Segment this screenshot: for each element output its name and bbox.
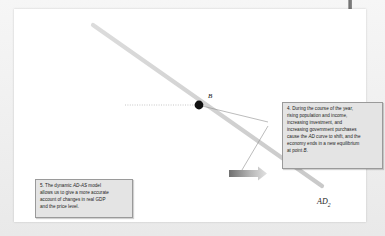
callout4-line5-a: cause the <box>287 134 308 139</box>
ad2-curve-label: AD2 <box>317 197 330 208</box>
ad2-label-subscript: 2 <box>328 202 331 208</box>
equilibrium-point-b-marker <box>195 101 204 110</box>
point-b-label: B <box>208 92 212 100</box>
callout4-line-5: cause the AD curve to shift, and the <box>287 134 379 141</box>
callout4-leader-to-arrow <box>239 126 268 175</box>
callout5-line-4: and the price level. <box>40 204 129 211</box>
callout4-line5-b: curve to shift, and the <box>315 134 361 139</box>
callout4-leader-to-point-b <box>202 106 268 122</box>
callout4-line-7: at point B. <box>287 148 379 155</box>
callout-box-4[interactable]: 4. During the course of the year, rising… <box>282 102 383 169</box>
callout5-line1-emphasis: AD-AS <box>73 183 87 188</box>
ad2-label-text: AD <box>317 197 328 206</box>
screenshot-root: B AD2 4. During the course of the year, … <box>0 0 385 236</box>
callout4-line7-b: . <box>307 148 308 153</box>
callout4-line-2: rising population and income, <box>287 113 379 120</box>
callout4-line-4: increasing government purchases <box>287 127 379 134</box>
callout-box-5[interactable]: 5. The dynamic AD-AS model allows us to … <box>35 179 133 218</box>
ad-shift-arrow-icon <box>229 167 267 181</box>
callout5-line-1: 5. The dynamic AD-AS model <box>40 183 129 190</box>
callout5-line1-b: model <box>87 183 101 188</box>
slide-card: B AD2 4. During the course of the year, … <box>14 9 366 222</box>
callout5-line1-a: 5. The dynamic <box>40 183 73 188</box>
callout4-line-1: 4. During the course of the year, <box>287 106 379 113</box>
callout5-line-2: allows us to give a more accurate <box>40 190 129 197</box>
callout4-line-3: increasing investment, and <box>287 120 379 127</box>
callout5-line-3: account of changes in real GDP <box>40 197 129 204</box>
callout4-line7-a: at point <box>287 148 304 153</box>
callout4-line-6: economy ends in a new equilibrium <box>287 141 379 148</box>
